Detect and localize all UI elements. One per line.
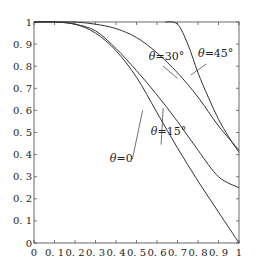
curve-label-0: θ=0 xyxy=(110,152,133,165)
leader-line xyxy=(132,110,142,159)
x-tick-label: 0. 9 xyxy=(209,247,228,258)
x-tick-label: 1 xyxy=(236,247,242,258)
y-tick-label: 0. 7 xyxy=(13,83,32,94)
x-tick-label: 0. 8 xyxy=(188,247,207,258)
curve-label-1: θ=15° xyxy=(151,125,186,138)
curve-label-3: θ=45° xyxy=(198,47,233,60)
y-tick-label: 1 xyxy=(26,17,32,28)
curve-2 xyxy=(34,22,239,150)
y-tick-label: 0. 4 xyxy=(13,149,32,160)
y-tick-label: 0. 8 xyxy=(13,61,32,72)
x-tick-label: 0. 5 xyxy=(127,247,146,258)
x-tick-label: 0. 7 xyxy=(168,247,187,258)
leader-line xyxy=(163,66,177,78)
y-tick-label: 0 xyxy=(26,238,32,249)
y-tick-label: 0. 1 xyxy=(13,215,32,226)
y-tick-label: 0. 6 xyxy=(13,105,32,116)
y-tick-label: 0. 2 xyxy=(13,193,32,204)
x-tick-label: 0. 4 xyxy=(106,247,125,258)
x-tick-label: 0. 3 xyxy=(86,247,105,258)
y-tick-label: 0. 5 xyxy=(13,127,32,138)
x-tick-label: 0. 1 xyxy=(45,247,64,258)
line-chart: 00. 10. 20. 30. 40. 50. 60. 70. 80. 91 0… xyxy=(0,0,256,270)
x-tick-label: 0. 2 xyxy=(65,247,84,258)
x-tick-label: 0 xyxy=(31,247,37,258)
y-tick-label: 0. 9 xyxy=(13,39,32,50)
y-tick-label: 0. 3 xyxy=(13,171,32,182)
x-tick-label: 0. 6 xyxy=(147,247,166,258)
curve-label-2: θ=30° xyxy=(149,50,184,63)
